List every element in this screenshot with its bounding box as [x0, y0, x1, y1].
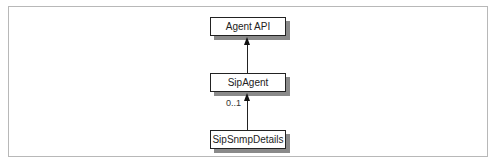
- node-label: Agent API: [226, 21, 270, 32]
- node-label: SipAgent: [228, 77, 269, 88]
- node-label: SipSnmpDetails: [212, 134, 283, 145]
- multiplicity-label: 0..1: [226, 98, 241, 108]
- arrowhead-icon: [244, 37, 250, 45]
- node-agent-api: Agent API: [210, 17, 286, 36]
- node-sip-agent: SipAgent: [210, 73, 286, 92]
- edge-sipsnmpdetails-to-sipagent: [247, 96, 248, 130]
- node-sip-snmp-details: SipSnmpDetails: [210, 130, 286, 149]
- arrowhead-icon: [244, 93, 250, 101]
